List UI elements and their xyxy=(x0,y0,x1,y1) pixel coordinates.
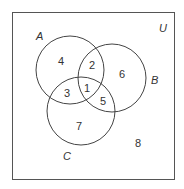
region-4: 4 xyxy=(58,55,64,67)
region-7: 7 xyxy=(76,120,82,132)
region-2: 2 xyxy=(89,59,95,71)
venn-diagram: U A B C 4 2 6 3 1 5 7 8 xyxy=(0,0,184,189)
set-a-label: A xyxy=(35,30,43,42)
region-5: 5 xyxy=(100,95,106,107)
region-1: 1 xyxy=(84,82,90,94)
set-c-label: C xyxy=(63,150,71,162)
universe-label: U xyxy=(159,22,167,34)
set-b-label: B xyxy=(151,74,158,86)
region-3: 3 xyxy=(64,87,70,99)
region-6: 6 xyxy=(119,68,125,80)
region-8: 8 xyxy=(135,137,141,149)
